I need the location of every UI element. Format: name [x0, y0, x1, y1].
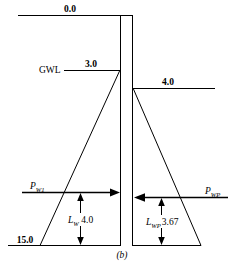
left-lever-dim-lower-arrowhead: [77, 237, 84, 245]
label-right-lever-value: 3.67: [162, 217, 179, 227]
label-ground-surface-level: 0.0: [64, 4, 76, 14]
label-left-force: PW1: [29, 181, 45, 193]
label-gwl: GWL: [39, 65, 61, 75]
label-dredge-level: 4.0: [162, 77, 174, 87]
right-force-arrow-head: [134, 193, 145, 202]
label-right-lever-subscript: WP: [151, 222, 161, 229]
diagram-canvas: 0.0 GWL 3.0 4.0 15.0 PW1 PWP LW4.0 LWP3.…: [0, 0, 233, 261]
label-right-force: PWP: [204, 186, 220, 198]
left-force-arrow-head: [110, 188, 120, 196]
left-pressure-hypotenuse: [40, 70, 120, 246]
retaining-wall-diagram: 0.0 GWL 3.0 4.0 15.0 PW1 PWP LW4.0 LWP3.…: [0, 0, 233, 261]
label-left-lever-value: 4.0: [81, 215, 93, 225]
label-base-level: 15.0: [17, 235, 34, 245]
label-left-lever: LW4.0: [67, 215, 93, 227]
right-lever-dim-lower-arrowhead: [158, 237, 165, 245]
label-right-force-subscript: WP: [211, 191, 221, 198]
label-right-lever: LWP3.67: [145, 217, 179, 229]
label-left-lever-subscript: W: [73, 220, 79, 227]
left-lever-dim-upper-arrowhead: [77, 193, 84, 201]
figure-caption: (b): [116, 250, 127, 261]
right-lever-dim-upper-arrowhead: [158, 198, 165, 206]
label-gwl-level: 3.0: [85, 59, 97, 69]
label-left-force-subscript: W1: [36, 186, 45, 193]
